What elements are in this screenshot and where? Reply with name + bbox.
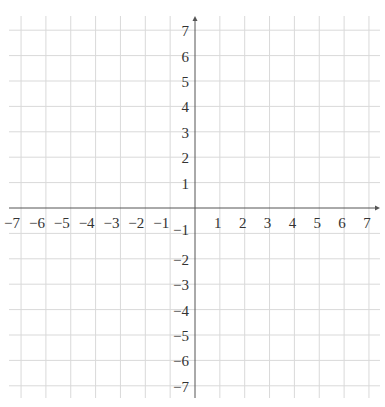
coordinate-plane: −7−6−5−4−3−2−11234567 7654321−1−2−3−4−5−… (0, 0, 385, 407)
x-tick-label: −1 (153, 215, 169, 231)
y-tick-label: −7 (173, 379, 189, 395)
x-tick-label: 1 (214, 215, 222, 231)
y-tick-label: 1 (182, 176, 190, 192)
x-tick-label: 2 (239, 215, 247, 231)
y-tick-label: 3 (182, 125, 190, 141)
y-tick-label: 6 (182, 49, 190, 65)
y-tick-label: 5 (182, 74, 190, 90)
x-tick-label: −2 (128, 215, 144, 231)
x-tick-label: 6 (338, 215, 346, 231)
y-tick-label: −4 (173, 303, 189, 319)
x-tick-label: −3 (103, 215, 119, 231)
x-tick-label: 7 (363, 215, 371, 231)
y-tick-label: −3 (173, 277, 189, 293)
x-axis-arrow-icon (375, 206, 380, 211)
y-axis-tick-labels: 7654321−1−2−3−4−5−6−7 (173, 23, 189, 395)
y-tick-label: −6 (173, 353, 189, 369)
x-tick-label: −7 (4, 215, 20, 231)
y-tick-label: 7 (182, 23, 190, 39)
y-axis-arrow-icon (193, 16, 198, 21)
axes (9, 16, 380, 398)
x-tick-label: −5 (54, 215, 70, 231)
y-tick-label: −2 (173, 252, 189, 268)
x-tick-label: −6 (29, 215, 45, 231)
x-tick-label: 4 (289, 215, 297, 231)
y-tick-label: −5 (173, 328, 189, 344)
x-tick-label: 5 (314, 215, 322, 231)
x-tick-label: −4 (79, 215, 95, 231)
y-tick-label: 2 (182, 150, 190, 166)
x-tick-label: 3 (264, 215, 272, 231)
y-tick-label: 4 (182, 99, 190, 115)
y-tick-label: −1 (173, 222, 189, 238)
